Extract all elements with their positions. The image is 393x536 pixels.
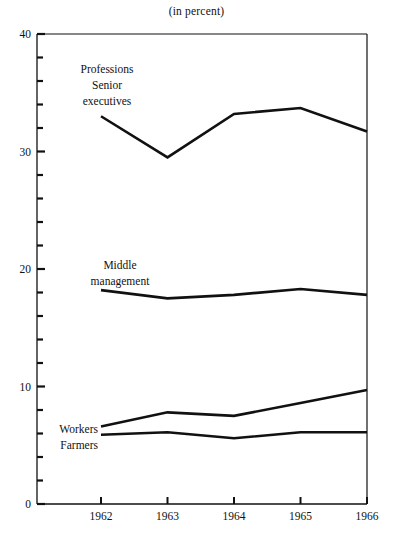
data-series-group <box>101 108 367 438</box>
x-tick-label-1966: 1966 <box>356 510 379 522</box>
x-tick-label-1963: 1963 <box>156 510 179 522</box>
y-tick-label-0: 0 <box>25 498 31 510</box>
x-tick-label-1964: 1964 <box>223 510 246 522</box>
chart-plot-area: 0 10 20 30 40 1962 1963 1964 1965 1966 <box>0 0 393 536</box>
series-labels-group: Professions Senior executives Middle man… <box>59 63 150 451</box>
series-label-professions-line2: Senior <box>92 79 122 91</box>
y-tick-label-10: 10 <box>20 381 32 393</box>
x-tick-label-1962: 1962 <box>90 510 113 522</box>
x-axis-tick-labels: 1962 1963 1964 1965 1966 <box>90 510 379 522</box>
series-line-professions-senior-executives <box>101 108 367 157</box>
y-tick-label-20: 20 <box>20 263 32 275</box>
series-label-farmers: Farmers <box>60 439 98 451</box>
y-axis-tick-labels: 0 10 20 30 40 <box>20 28 32 510</box>
y-tick-label-30: 30 <box>20 146 32 158</box>
series-label-professions-line3: executives <box>83 95 132 107</box>
x-axis-ticks <box>101 497 367 504</box>
series-line-middle-management <box>101 289 367 298</box>
series-label-middle-line1: Middle <box>103 259 136 271</box>
series-label-professions-line1: Professions <box>80 63 134 75</box>
x-tick-label-1965: 1965 <box>289 510 312 522</box>
series-line-workers <box>101 390 367 426</box>
y-tick-label-40: 40 <box>20 28 32 40</box>
series-label-workers: Workers <box>59 423 98 435</box>
series-line-farmers <box>101 432 367 438</box>
series-label-middle-line2: management <box>91 275 151 288</box>
chart-container: (in percent) <box>0 0 393 536</box>
